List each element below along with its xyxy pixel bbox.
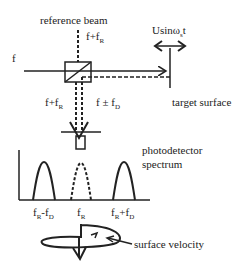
input-freq-label: f xyxy=(12,52,16,64)
target-motion-label: Usinωst xyxy=(152,24,186,39)
photodetector-label: photodetector xyxy=(142,144,203,156)
peak-upper-sideband xyxy=(113,162,135,200)
tick-upper-sideband: fR+fD xyxy=(111,206,134,221)
reference-beam-label: reference beam xyxy=(40,14,108,26)
peak-carrier xyxy=(71,163,91,200)
tick-carrier: fR xyxy=(77,206,86,221)
left-beam-freq-label: f+fR xyxy=(45,96,64,111)
right-beam-freq-label: f ± fD xyxy=(96,96,120,111)
surface-velocity-loop-icon xyxy=(42,224,120,247)
target-surface-label: target surface xyxy=(172,96,231,108)
reference-freq-label: f+fR xyxy=(86,30,105,45)
peak-lower-sideband xyxy=(33,162,55,200)
laser-doppler-vibrometer-diagram: reference beam f+fR f Usinωst target sur… xyxy=(0,0,250,266)
beam-splitter-diagonal xyxy=(65,62,91,82)
spectrum-label-text: spectrum xyxy=(142,158,183,170)
loop-arrow-icon xyxy=(91,233,97,238)
tick-lower-sideband: fR-fD xyxy=(33,206,54,221)
photodetector xyxy=(76,136,85,149)
surface-velocity-label: surface velocity xyxy=(134,238,204,250)
